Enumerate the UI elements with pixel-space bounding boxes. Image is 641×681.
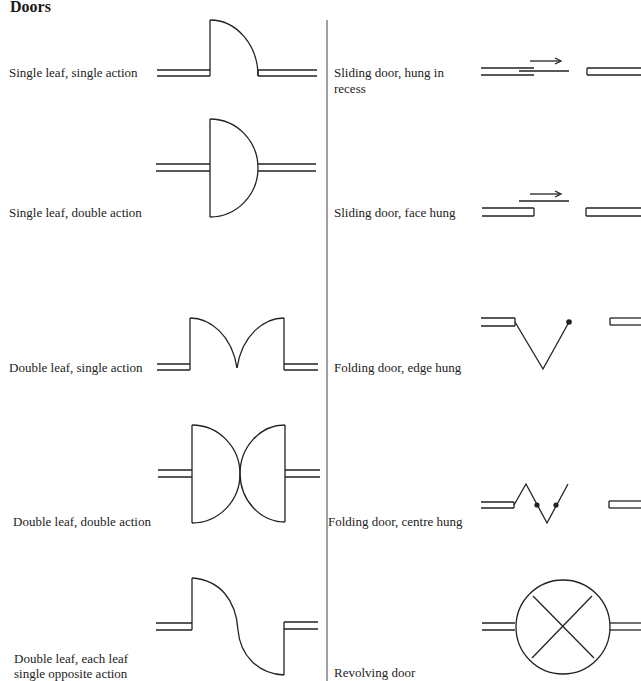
door-symbols-diagram: Doors Single leaf, single action Single … xyxy=(0,0,641,681)
double-leaf-opposite-action-symbol xyxy=(156,578,318,675)
double-leaf-single-action-symbol xyxy=(157,318,318,370)
pivot-dot-icon xyxy=(553,502,558,507)
sliding-door-recess-symbol xyxy=(481,58,641,75)
revolving-door-symbol xyxy=(482,580,641,674)
pivot-dot-icon xyxy=(566,319,572,325)
double-leaf-double-action-symbol xyxy=(158,425,320,523)
sliding-door-face-hung-symbol xyxy=(482,191,641,216)
pivot-dot-icon xyxy=(534,502,539,507)
single-leaf-single-action-symbol xyxy=(157,20,317,76)
folding-door-edge-hung-symbol xyxy=(481,318,641,369)
folding-door-centre-hung-symbol xyxy=(481,484,641,523)
single-leaf-double-action-symbol xyxy=(156,119,316,217)
